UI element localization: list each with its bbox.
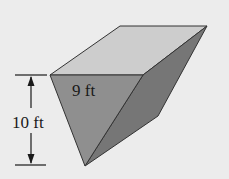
height-label: 10 ft — [12, 113, 44, 132]
arrow-up-icon — [28, 76, 35, 86]
width-label: 9 ft — [72, 81, 95, 100]
arrow-down-icon — [28, 154, 35, 164]
diagram-canvas: 10 ft 9 ft — [0, 0, 229, 179]
